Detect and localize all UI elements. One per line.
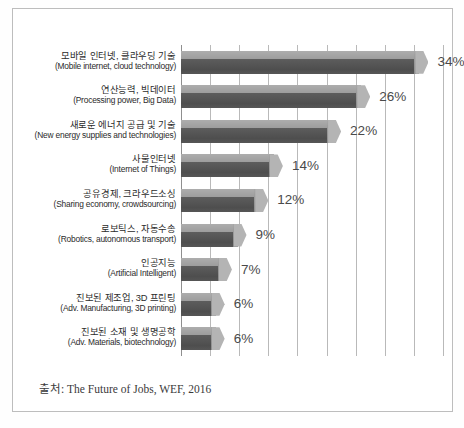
category-label: 진보된 소재 및 생명공학(Adv. Materials, biotechnol…	[20, 327, 181, 348]
bar-top	[181, 154, 274, 162]
bar-row: 공유경제, 크라우드소싱(Sharing economy, crowdsourc…	[181, 183, 443, 218]
category-label: 공유경제, 크라우드소싱(Sharing economy, crowdsourc…	[20, 189, 181, 210]
category-label-en: (Processing power, Big Data)	[20, 96, 176, 106]
bar-top	[181, 258, 223, 266]
bar	[181, 189, 268, 212]
bar-value-label: 7%	[241, 262, 261, 277]
bar-cap	[212, 327, 225, 350]
bar-cap	[328, 120, 341, 143]
bar-value-label: 14%	[292, 158, 319, 173]
bar-value-label: 6%	[234, 296, 254, 311]
bar-top	[181, 85, 361, 93]
bar	[181, 120, 341, 143]
bar-value-label: 6%	[234, 331, 254, 346]
category-label: 진보된 제조업, 3D 프린팅(Adv. Manufacturing, 3D p…	[20, 293, 181, 314]
bar	[181, 258, 232, 281]
category-label-en: (Artificial Intelligent)	[20, 269, 176, 279]
bar-body	[181, 232, 238, 247]
category-label: 모바일 인터넷, 클라우딩 기술(Mobile internet, cloud …	[20, 51, 181, 72]
plot-area: 모바일 인터넷, 클라우딩 기술(Mobile internet, cloud …	[181, 45, 443, 356]
bar-cap	[212, 293, 225, 316]
chart-frame: 모바일 인터넷, 클라우딩 기술(Mobile internet, cloud …	[12, 8, 453, 412]
category-label: 사물인터넷(Internet of Things)	[20, 154, 181, 175]
bar-value-label: 12%	[277, 192, 304, 207]
bar-row: 진보된 제조업, 3D 프린팅(Adv. Manufacturing, 3D p…	[181, 287, 443, 322]
bar-value-label: 26%	[379, 89, 406, 104]
bar-body	[181, 266, 223, 281]
chart-figure: 모바일 인터넷, 클라우딩 기술(Mobile internet, cloud …	[0, 0, 464, 428]
gridline-36	[443, 45, 444, 356]
bar	[181, 51, 428, 74]
bar-body	[181, 59, 419, 74]
category-label-en: (Adv. Manufacturing, 3D printing)	[20, 304, 176, 314]
bar-cap	[415, 51, 428, 74]
bar-value-label: 22%	[350, 123, 377, 138]
bar-cap	[234, 224, 247, 247]
bar-body	[181, 162, 274, 177]
bar-body	[181, 197, 259, 212]
bar-top	[181, 120, 332, 128]
bar	[181, 224, 247, 247]
category-label: 로보틱스, 자동수송(Robotics, autonomous transpor…	[20, 224, 181, 245]
bar	[181, 85, 370, 108]
bar-body	[181, 128, 332, 143]
bar-top	[181, 224, 238, 232]
category-label: 인공지능(Artificial Intelligent)	[20, 258, 181, 279]
category-label: 새로운 에너지 공급 및 기술(New energy supplies and …	[20, 120, 181, 141]
bar-value-label: 9%	[256, 227, 276, 242]
source-note: 출처: The Future of Jobs, WEF, 2016	[39, 380, 211, 396]
bar-row: 새로운 에너지 공급 및 기술(New energy supplies and …	[181, 114, 443, 149]
bar-row: 로보틱스, 자동수송(Robotics, autonomous transpor…	[181, 218, 443, 253]
bar-row: 진보된 소재 및 생명공학(Adv. Materials, biotechnol…	[181, 321, 443, 356]
bar-cap	[255, 189, 268, 212]
bar-cap	[219, 258, 232, 281]
category-label-ko: 진보된 제조업, 3D 프린팅	[20, 293, 176, 304]
category-label-en: (Mobile internet, cloud technology)	[20, 62, 176, 72]
bar-top	[181, 189, 259, 197]
bar-row: 모바일 인터넷, 클라우딩 기술(Mobile internet, cloud …	[181, 45, 443, 80]
bar-row: 인공지능(Artificial Intelligent)7%	[181, 252, 443, 287]
bar-row: 사물인터넷(Internet of Things)14%	[181, 149, 443, 184]
bar	[181, 293, 225, 316]
category-label-en: (Sharing economy, crowdsourcing)	[20, 200, 176, 210]
category-label-ko: 로보틱스, 자동수송	[20, 224, 176, 235]
bar	[181, 154, 283, 177]
bar-top	[181, 51, 419, 59]
bar-row: 연산능력, 빅데이터(Processing power, Big Data)26…	[181, 80, 443, 115]
category-label-en: (Internet of Things)	[20, 165, 176, 175]
category-label: 연산능력, 빅데이터(Processing power, Big Data)	[20, 85, 181, 106]
bar-cap	[270, 154, 283, 177]
bar-value-label: 34%	[437, 54, 464, 69]
category-label-en: (Robotics, autonomous transport)	[20, 235, 176, 245]
category-label-en: (New energy supplies and technologies)	[20, 131, 176, 141]
bar-body	[181, 93, 361, 108]
bar	[181, 327, 225, 350]
category-label-en: (Adv. Materials, biotechnology)	[20, 338, 176, 348]
bar-cap	[357, 85, 370, 108]
